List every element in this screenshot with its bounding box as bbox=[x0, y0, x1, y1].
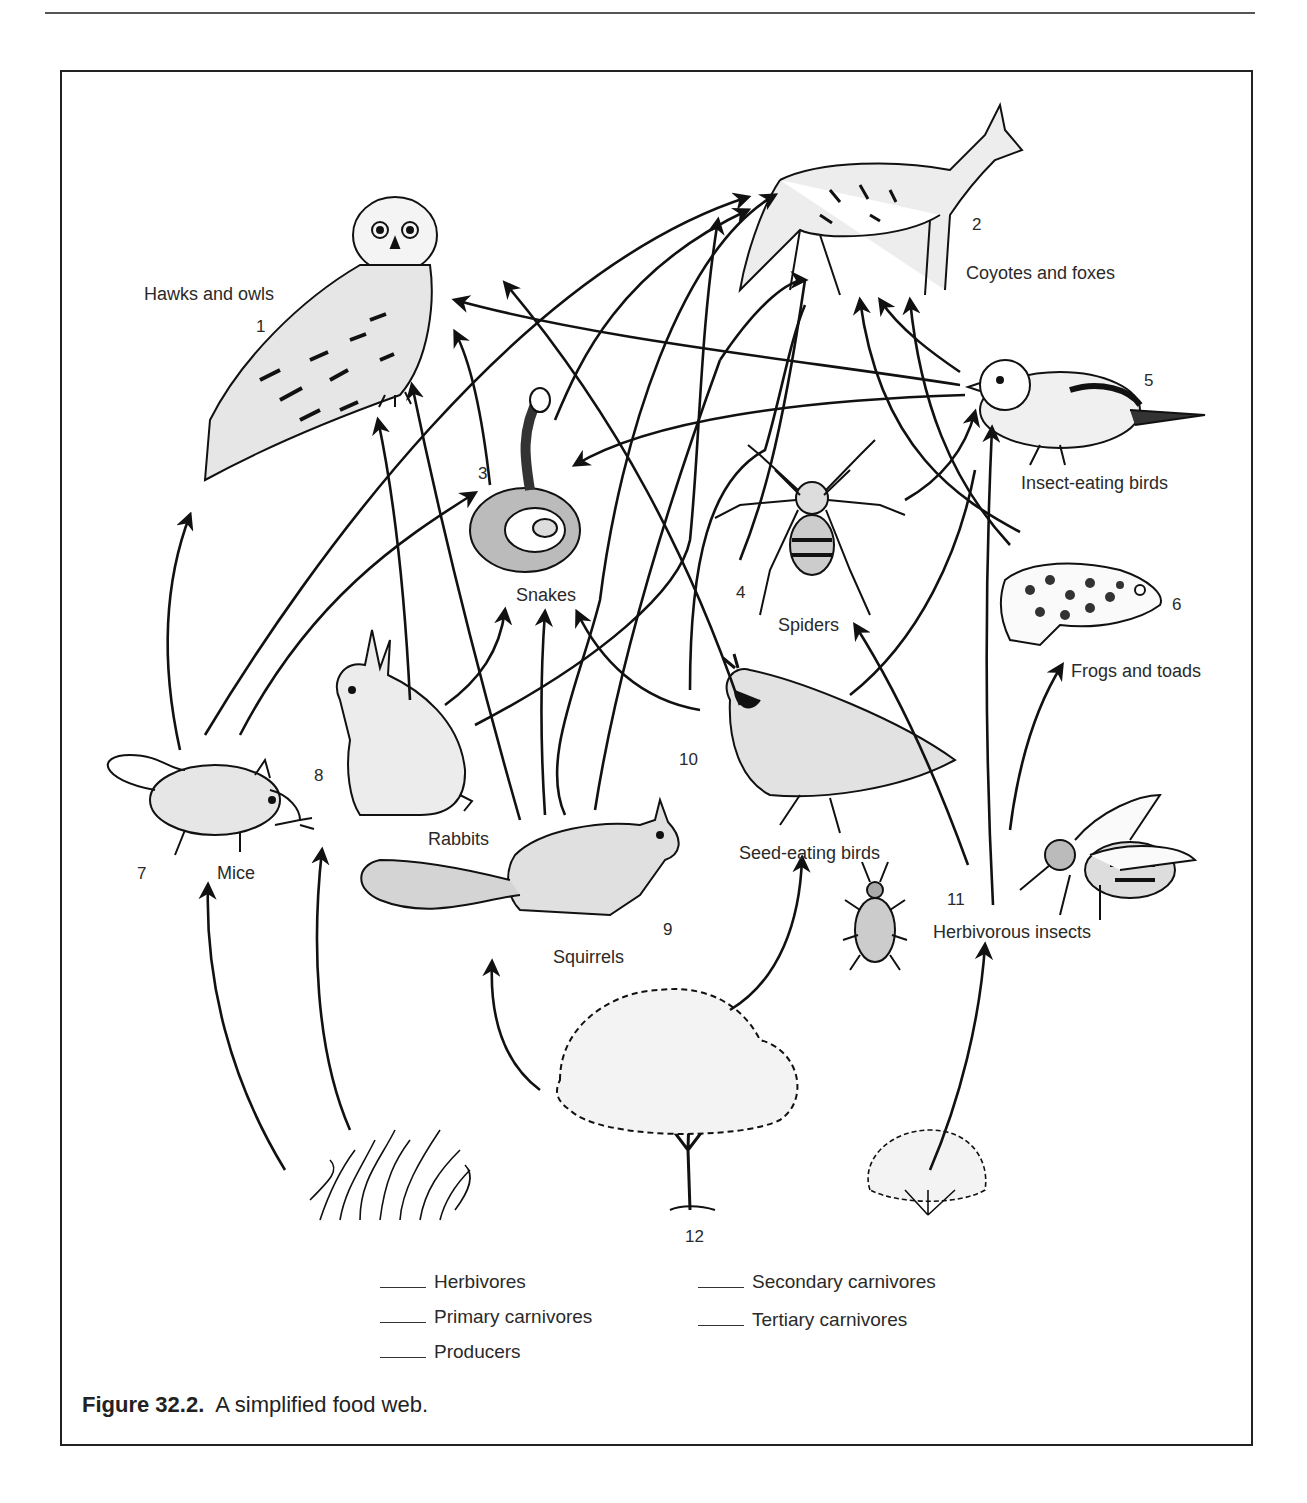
number-7: 7 bbox=[137, 865, 146, 882]
label-mice: Mice bbox=[217, 864, 255, 882]
label-seed-eating-birds: Seed-eating birds bbox=[739, 844, 880, 862]
number-8: 8 bbox=[314, 767, 323, 784]
legend-secondary-carnivores[interactable]: Secondary carnivores bbox=[698, 1272, 936, 1291]
tree-icon bbox=[557, 989, 797, 1210]
bee-beetle-icon bbox=[843, 795, 1195, 970]
answer-blank[interactable] bbox=[698, 1325, 744, 1326]
label-spiders: Spiders bbox=[778, 616, 839, 634]
grass-icon bbox=[310, 1130, 470, 1220]
answer-blank[interactable] bbox=[698, 1287, 744, 1288]
answer-blank[interactable] bbox=[380, 1357, 426, 1358]
number-5: 5 bbox=[1144, 372, 1153, 389]
label-coyotes-foxes: Coyotes and foxes bbox=[966, 264, 1115, 282]
legend-tertiary-carnivores[interactable]: Tertiary carnivores bbox=[698, 1310, 907, 1329]
frog-icon bbox=[1001, 563, 1161, 645]
owl-icon bbox=[205, 197, 437, 480]
caption-label: Figure 32.2. bbox=[82, 1392, 204, 1417]
shrub-icon bbox=[868, 1130, 986, 1215]
food-web-diagram bbox=[0, 0, 1307, 1503]
label-hawks-owls: Hawks and owls bbox=[144, 285, 274, 303]
songbird-icon bbox=[968, 360, 1205, 465]
number-1: 1 bbox=[256, 318, 265, 335]
number-4: 4 bbox=[736, 584, 745, 601]
legend-producers[interactable]: Producers bbox=[380, 1342, 521, 1361]
label-squirrels: Squirrels bbox=[553, 948, 624, 966]
mouse-icon bbox=[108, 755, 314, 855]
label-rabbits: Rabbits bbox=[428, 830, 489, 848]
rabbit-icon bbox=[337, 630, 472, 815]
label-herbivorous-insects: Herbivorous insects bbox=[933, 923, 1091, 941]
label-insect-eating-birds: Insect-eating birds bbox=[1021, 474, 1168, 492]
figure-caption: Figure 32.2. A simplified food web. bbox=[82, 1392, 428, 1418]
caption-text: A simplified food web. bbox=[215, 1392, 428, 1417]
label-snakes: Snakes bbox=[516, 586, 576, 604]
number-2: 2 bbox=[972, 216, 981, 233]
label-frogs-toads: Frogs and toads bbox=[1071, 662, 1201, 680]
answer-blank[interactable] bbox=[380, 1287, 426, 1288]
number-9: 9 bbox=[663, 921, 672, 938]
number-6: 6 bbox=[1172, 596, 1181, 613]
answer-blank[interactable] bbox=[380, 1322, 426, 1323]
legend-primary-carnivores[interactable]: Primary carnivores bbox=[380, 1307, 592, 1326]
legend-herbivores[interactable]: Herbivores bbox=[380, 1272, 526, 1291]
number-10: 10 bbox=[679, 751, 698, 768]
quail-icon bbox=[723, 654, 955, 833]
number-12: 12 bbox=[685, 1228, 704, 1245]
number-11: 11 bbox=[947, 891, 965, 908]
number-3: 3 bbox=[478, 465, 487, 482]
